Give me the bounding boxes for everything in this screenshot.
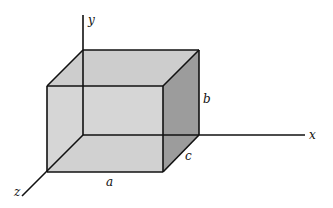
- y-axis-label: y: [87, 13, 95, 27]
- dimension-b-label: b: [203, 92, 211, 106]
- box-diagram: y x z a b c: [0, 0, 333, 208]
- dimension-a-label: a: [106, 175, 113, 189]
- front-face: [47, 86, 163, 172]
- dimension-c-label: c: [185, 149, 192, 163]
- z-axis-label: z: [13, 185, 21, 199]
- x-axis-label: x: [309, 128, 316, 142]
